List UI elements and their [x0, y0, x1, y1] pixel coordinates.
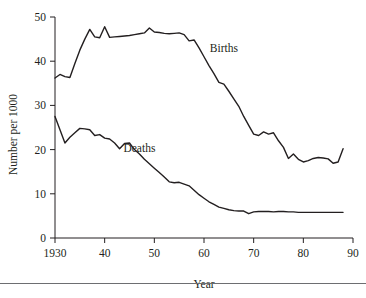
series-annotation-deaths: Deaths	[123, 142, 155, 154]
y-tick-label: 20	[35, 144, 47, 156]
x-tick-label: 40	[99, 247, 111, 259]
x-tick-label: 80	[298, 247, 310, 259]
series-annotations: BirthsDeaths	[123, 42, 238, 153]
x-tick-label: 1930	[44, 247, 67, 259]
series-annotation-births: Births	[210, 42, 239, 54]
x-tick-label: 50	[149, 247, 161, 259]
data-series-group	[55, 27, 343, 214]
y-axis-tick-labels: 01020304050	[35, 11, 47, 244]
x-axis-ticks	[55, 238, 353, 243]
y-tick-label: 10	[35, 188, 47, 200]
x-axis-title: Year	[193, 278, 214, 290]
series-line-births	[55, 27, 343, 164]
birth-death-rate-line-chart: 01020304050 1930405060708090 BirthsDeath…	[0, 0, 366, 298]
x-axis-tick-labels: 1930405060708090	[44, 247, 360, 259]
x-tick-label: 90	[347, 247, 359, 259]
y-tick-label: 0	[40, 232, 46, 244]
x-tick-label: 70	[248, 247, 260, 259]
series-line-deaths	[55, 116, 343, 213]
y-tick-label: 30	[35, 99, 47, 111]
figure-container: 01020304050 1930405060708090 BirthsDeath…	[0, 0, 366, 298]
x-tick-label: 60	[198, 247, 210, 259]
y-tick-label: 40	[35, 55, 47, 67]
footer-divider	[0, 283, 366, 284]
y-tick-label: 50	[35, 11, 47, 23]
y-axis-title: Number per 1000	[7, 94, 20, 175]
y-axis-ticks	[50, 17, 55, 238]
